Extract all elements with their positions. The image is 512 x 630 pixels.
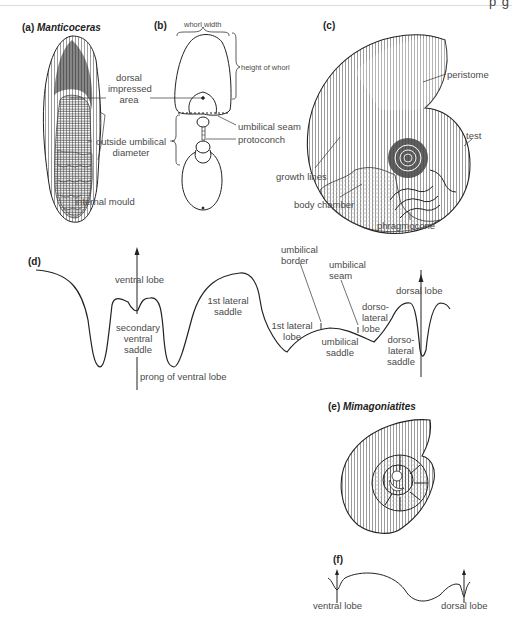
panel-a-title: (a) Manticoceras [22, 22, 101, 33]
panel-e-genus: Mimagoniatites [343, 401, 416, 412]
label-dorsal-lobe: dorsal lobe [396, 285, 442, 296]
label-secondary-ventral-saddle: secondary ventral saddle [108, 322, 168, 355]
label-line: impressed [108, 83, 150, 94]
label-peristome: peristome [447, 69, 489, 80]
panel-a-letter: (a) [22, 22, 34, 33]
panel-a-genus: Manticoceras [37, 22, 101, 33]
panel-c-letter: (c) [323, 20, 335, 31]
label-umbilical-seam-d: umbilical seam [329, 259, 366, 281]
label-line: umbilical [329, 259, 366, 270]
panel-e-title: (e) Mimagoniatites [328, 401, 416, 412]
label-line: 1st lateral [270, 320, 314, 331]
label-ventral-lobe: ventral lobe [115, 274, 164, 285]
label-line: ventral [108, 333, 168, 344]
label-line: lobe [270, 331, 314, 342]
label-line: lateral [362, 312, 389, 323]
label-line: area [108, 94, 150, 105]
panel-b-letter: (b) [154, 20, 167, 31]
label-first-lateral-lobe: 1st lateral lobe [270, 320, 314, 342]
label-test: test [466, 130, 481, 141]
label-protoconch: protoconch [238, 134, 285, 145]
diagram-artwork [0, 0, 512, 630]
dorsal-lobe-arrowhead [419, 274, 424, 282]
panel-e-letter: (e) [328, 401, 340, 412]
label-line: lateral [381, 345, 421, 356]
label-umbilical-seam: umbilical seam [238, 121, 301, 132]
panel-f-letter: (f) [333, 554, 343, 565]
label-whorl-width: whorl width [184, 19, 222, 30]
mimagoniatites-shell-illustration [341, 420, 434, 534]
label-internal-mould: internal mould [75, 196, 135, 207]
label-line: saddle [205, 306, 251, 317]
label-growth-lines: growth lines [276, 171, 327, 182]
label-umbilical-saddle: umbilical saddle [318, 336, 362, 358]
label-dorsal-impressed-area: dorsal impressed area [108, 72, 150, 105]
panel-d-letter: (d) [28, 256, 41, 267]
label-phragmocone: phragmocone [377, 220, 435, 231]
label-height-of-whorl: height of whorl [241, 62, 290, 73]
label-line: saddle [381, 356, 421, 367]
label-outside-umbilical-diameter: outside umbilical diameter [92, 136, 170, 158]
label-line: lobe [362, 323, 389, 334]
label-line: saddle [318, 347, 362, 358]
height-of-whorl-brace [232, 33, 240, 99]
label-line: seam [329, 270, 366, 281]
label-dorsolateral-saddle: dorso- lateral saddle [381, 334, 421, 367]
label-line: dorsal [108, 72, 150, 83]
label-line: secondary [108, 322, 168, 333]
label-prong-of-ventral-lobe: prong of ventral lobe [140, 371, 227, 382]
ventral-lobe-arrowhead [135, 247, 140, 255]
label-line: border [281, 255, 318, 266]
label-body-chamber: body chamber [294, 199, 354, 210]
label-line: dorso- [381, 334, 421, 345]
label-f-ventral-lobe: ventral lobe [313, 600, 362, 611]
whorl-section-outline-illustration [175, 35, 231, 211]
label-first-lateral-saddle: 1st lateral saddle [205, 295, 251, 317]
label-dorsolateral-lobe: dorso- lateral lobe [362, 301, 389, 334]
label-f-dorsal-lobe: dorsal lobe [441, 600, 487, 611]
label-line: dorso- [362, 301, 389, 312]
label-line: umbilical [281, 244, 318, 255]
label-line: umbilical [318, 336, 362, 347]
label-line: outside umbilical [92, 136, 170, 147]
manticoceras-cross-section-illustration [43, 36, 105, 222]
label-line: 1st lateral [205, 295, 251, 306]
suture-line-f [328, 573, 470, 601]
label-line: diameter [92, 147, 170, 158]
label-umbilical-border: umbilical border [281, 244, 318, 266]
label-line: saddle [108, 344, 168, 355]
